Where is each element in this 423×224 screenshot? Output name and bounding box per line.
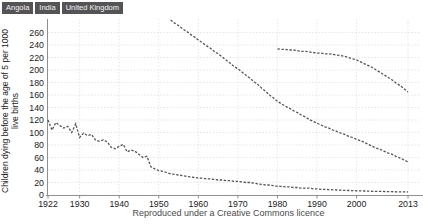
y-tick-label: 80 — [34, 140, 44, 150]
united-kingdom-series-line[interactable] — [48, 120, 408, 192]
plot-area: 1922193019401950196019701980199020002013… — [0, 0, 423, 224]
y-tick-label: 260 — [29, 28, 44, 38]
y-tick-label: 200 — [29, 65, 44, 75]
y-tick-label: 180 — [29, 78, 44, 88]
y-tick-label: 160 — [29, 90, 44, 100]
page: { "legend": { "items": [ { "label": "Ang… — [0, 0, 423, 224]
y-tick-label: 140 — [29, 103, 44, 113]
y-tick-label: 40 — [34, 165, 44, 175]
y-tick-label: 240 — [29, 40, 44, 50]
y-tick-label: 0 — [39, 190, 44, 200]
india-series-line[interactable] — [171, 20, 408, 162]
child-mortality-chart: Angola India United Kingdom Children dyi… — [0, 0, 423, 224]
y-tick-label: 220 — [29, 53, 44, 63]
y-tick-label: 60 — [34, 153, 44, 163]
y-tick-label: 120 — [29, 115, 44, 125]
y-tick-label: 100 — [29, 128, 44, 138]
y-tick-label: 20 — [34, 178, 44, 188]
caption: Reproduced under a Creative Commons lice… — [17, 208, 423, 218]
